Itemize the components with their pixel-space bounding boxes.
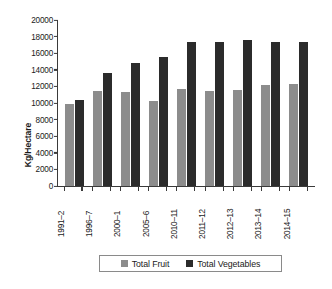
x-axis-tick-mark (120, 187, 139, 191)
y-axis-tick-label: 14000 (31, 65, 58, 74)
y-axis-tick-label: 12000 (31, 82, 58, 91)
chart-legend: Total Fruit Total Vegetables (99, 255, 282, 272)
x-axis-label-slot: 2005–6 (148, 192, 167, 240)
x-axis-tick-mark (64, 187, 83, 191)
bar-total-vegetables (271, 42, 280, 186)
x-axis-tick-label: 2014–15 (283, 209, 315, 239)
bar-total-vegetables (159, 57, 168, 186)
x-axis-label-slot: 2013–14 (261, 192, 280, 240)
bar-total-fruit (233, 90, 242, 186)
y-axis-tick-label: 20000 (31, 16, 58, 25)
legend-label-total-vegetables: Total Vegetables (197, 259, 260, 269)
bar-total-vegetables (131, 63, 140, 186)
x-axis-tick-mark (148, 187, 167, 191)
bar-group (205, 20, 224, 186)
bar-group (261, 20, 280, 186)
y-axis-tick-label: 8000 (36, 115, 58, 124)
y-axis-tick-label: 4000 (36, 148, 58, 157)
bar-total-fruit (289, 84, 298, 186)
bar-total-fruit (93, 91, 102, 186)
x-axis-tick-mark (205, 187, 224, 191)
y-axis-tick-label: 18000 (31, 32, 58, 41)
bar-total-fruit (65, 104, 74, 186)
x-axis-tick-mark (176, 187, 195, 191)
x-axis-label-slot: 2011–12 (205, 192, 224, 240)
bar-total-fruit (205, 91, 214, 186)
bar-group (233, 20, 252, 186)
x-axis-label-slot: 1991–2 (64, 192, 83, 240)
bar-total-vegetables (243, 40, 252, 186)
x-axis-tick-label: 2013–14 (255, 209, 287, 239)
bar-group (65, 20, 84, 186)
x-axis-tick-label: 2000–1 (114, 211, 146, 237)
bar-chart: Kg/Hectare 20000180001600014000120001000… (0, 0, 332, 289)
x-axis-label-slot: 2010–11 (176, 192, 195, 240)
bar-total-fruit (261, 85, 270, 186)
legend-item-total-vegetables: Total Vegetables (186, 259, 260, 269)
legend-label-total-fruit: Total Fruit (132, 259, 170, 269)
y-axis-tick-label: 16000 (31, 49, 58, 58)
x-axis-tick-mark (289, 187, 308, 191)
bar-group (121, 20, 140, 186)
bar-total-vegetables (103, 73, 112, 186)
bar-total-vegetables (75, 100, 84, 186)
y-axis-tick-label: 10000 (31, 99, 58, 108)
x-axis-label-slot: 2012–13 (233, 192, 252, 240)
y-axis-tick-label: 6000 (36, 132, 58, 141)
vegetables-swatch-icon (186, 260, 193, 267)
bar-group (289, 20, 308, 186)
bar-total-vegetables (215, 42, 224, 186)
bar-groups (58, 20, 315, 186)
x-axis-label-slot: 2000–1 (120, 192, 139, 240)
plot-area: 2000018000160001400012000100008000600040… (57, 20, 315, 187)
x-axis-tick-mark (233, 187, 252, 191)
bar-total-fruit (149, 101, 158, 186)
bar-group (93, 20, 112, 186)
legend-item-total-fruit: Total Fruit (121, 259, 170, 269)
bar-total-fruit (121, 92, 130, 186)
y-axis-tick-label: 2000 (36, 165, 58, 174)
x-axis-labels: 1991–21996–72000–12005–62010–112011–1220… (57, 192, 315, 240)
y-axis-title: Kg/Hectare (23, 122, 33, 166)
x-axis-label-slot: 2014–15 (289, 192, 308, 240)
bar-total-fruit (177, 89, 186, 186)
x-axis-label-slot: 1996–7 (92, 192, 111, 240)
bar-group (149, 20, 168, 186)
x-axis-tick-mark (92, 187, 111, 191)
bar-group (177, 20, 196, 186)
bar-total-vegetables (187, 42, 196, 186)
fruit-swatch-icon (121, 260, 128, 267)
bar-total-vegetables (299, 42, 308, 186)
x-axis-tick-mark (261, 187, 280, 191)
